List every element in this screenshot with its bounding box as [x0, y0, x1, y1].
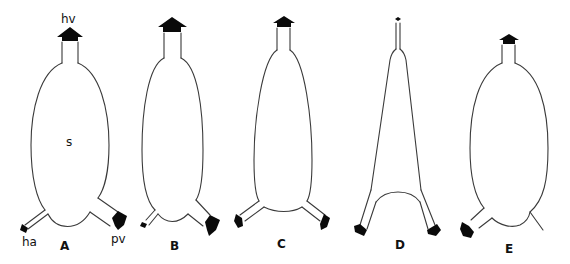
panel-a-label: A: [60, 240, 69, 252]
panel-b-right-inflow-arrow-icon: [205, 215, 220, 236]
panel-d-label: D: [395, 239, 405, 251]
panel-e-label: E: [505, 243, 513, 255]
panel-a-neck: [62, 42, 78, 63]
panel-a-diagram: [20, 27, 127, 233]
panel-d-left-inflow-arrow-icon: [354, 224, 367, 236]
panel-c-diagram: [234, 16, 330, 230]
panel-c-right-branch: [302, 201, 325, 221]
panel-b-sac: [142, 58, 203, 222]
panel-c-right-inflow-arrow-icon: [320, 214, 330, 230]
ha-label: ha: [22, 236, 37, 248]
panel-d-outflow-arrow-icon: [395, 17, 401, 21]
panel-d-diagram: [354, 17, 441, 236]
panel-b-neck: [164, 33, 181, 58]
hv-label: hv: [61, 13, 76, 25]
panel-c-label: C: [277, 238, 286, 250]
panel-e-left-inflow-arrow-icon: [460, 222, 474, 238]
panel-b-label: B: [170, 240, 179, 252]
panel-e-outflow-arrow-icon: [499, 34, 519, 44]
panel-c-left-inflow-arrow-icon: [234, 214, 243, 228]
panel-b-diagram: [140, 17, 220, 236]
ha-inflow-arrow-icon: [20, 224, 28, 233]
panel-e-left-branch: [471, 208, 492, 228]
panel-b-outflow-arrow-icon: [158, 17, 187, 32]
panel-b-left-branch: [146, 210, 158, 225]
diagram-canvas: [0, 0, 570, 264]
panel-c-neck: [277, 28, 290, 50]
panel-d-left-branch: [360, 190, 376, 229]
panel-d-sac: [371, 49, 421, 202]
panel-d-right-inflow-arrow-icon: [427, 224, 441, 236]
panel-e-diagram: [460, 34, 548, 238]
panel-b-left-inflow-arrow-icon: [140, 222, 147, 228]
hv-outflow-arrow-icon: [57, 27, 83, 41]
pv-label: pv: [111, 233, 126, 245]
panel-a-ha-branch: [25, 210, 48, 229]
panel-d-right-branch: [420, 190, 435, 229]
panel-c-sac: [254, 50, 312, 212]
panel-e-sac: [470, 63, 548, 226]
panel-c-outflow-arrow-icon: [273, 16, 295, 27]
panel-e-neck: [502, 45, 515, 63]
panel-e-right-closed-branch: [530, 212, 543, 230]
pv-inflow-arrow-icon: [112, 211, 127, 230]
sac-s-label: s: [66, 136, 72, 148]
panel-c-left-branch: [240, 201, 264, 221]
panel-d-neck: [396, 23, 400, 49]
